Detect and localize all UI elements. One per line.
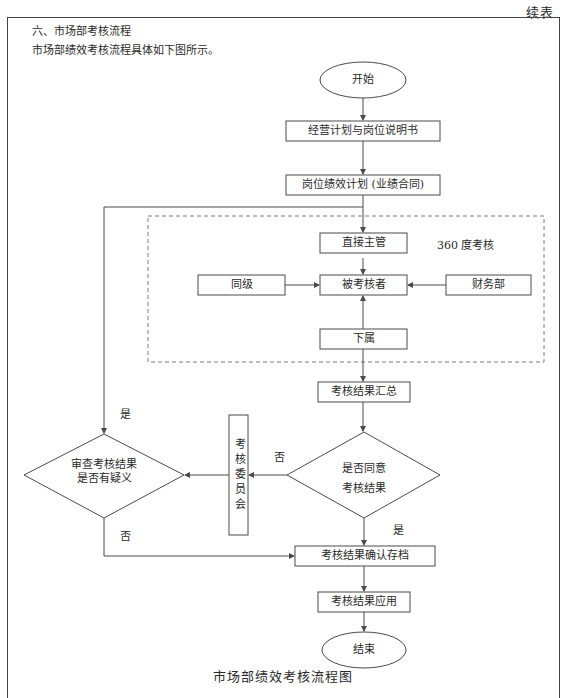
figure-caption: 市场部绩效考核流程图 (0, 666, 566, 685)
appraisee-node: 被考核者 (320, 275, 407, 295)
peer-node: 同级 (198, 275, 285, 295)
360-group-label: 360 度考核 (437, 236, 495, 252)
agree-decision-line2: 考核结果 (314, 482, 414, 496)
direct-supervisor-node: 直接主管 (320, 233, 407, 253)
edge-label-agree-no: 否 (274, 448, 285, 464)
start-node: 开始 (320, 71, 406, 89)
committee-node: 考核委员会 (229, 415, 248, 535)
archive-node: 考核结果确认存档 (295, 546, 435, 566)
apply-node: 考核结果应用 (318, 592, 410, 612)
review-decision-line2: 是否有疑义 (44, 472, 164, 486)
agree-decision-line1: 是否同意 (314, 462, 414, 476)
business-plan-node: 经营计划与岗位说明书 (286, 121, 440, 141)
summary-node: 考核结果汇总 (318, 382, 410, 402)
edge-label-review-yes: 是 (120, 405, 131, 421)
edge-label-review-no: 否 (120, 527, 131, 543)
end-node: 结束 (322, 641, 406, 659)
finance-node: 财务部 (446, 275, 531, 295)
edge-label-agree-yes: 是 (393, 521, 404, 537)
performance-plan-node: 岗位绩效计划 (业绩合同) (286, 175, 440, 195)
review-decision-line1: 审查考核结果 (44, 458, 164, 472)
subordinate-node: 下属 (320, 329, 407, 349)
